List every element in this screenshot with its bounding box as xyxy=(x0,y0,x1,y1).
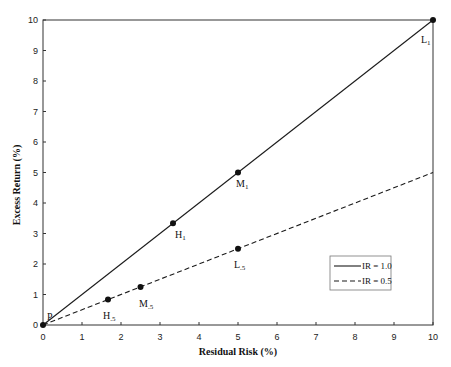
legend: IR = 1.0 IR = 0.5 xyxy=(330,256,392,290)
x-tick-label: 9 xyxy=(391,332,396,342)
x-axis-title: Residual Risk (%) xyxy=(199,346,277,358)
y-axis-title: Excess Return (%) xyxy=(11,145,23,226)
y-tick-label: 3 xyxy=(33,229,38,239)
x-tick-label: 8 xyxy=(352,332,357,342)
x-tick-label: 4 xyxy=(196,332,201,342)
y-tick-label: 9 xyxy=(33,46,38,56)
x-tick-label: 0 xyxy=(40,332,45,342)
x-tick-label: 10 xyxy=(428,332,438,342)
legend-solid-label: IR = 1.0 xyxy=(362,261,392,271)
x-tick-label: 2 xyxy=(118,332,123,342)
y-tick-label: 0 xyxy=(33,320,38,330)
y-tick-label: 5 xyxy=(33,168,38,178)
x-tick-label: 1 xyxy=(79,332,84,342)
y-tick-label: 8 xyxy=(33,76,38,86)
chart: 0 1 2 3 4 5 6 7 8 9 10 Residual Risk (%)… xyxy=(0,0,451,367)
x-tick-label: 6 xyxy=(274,332,279,342)
y-tick-label: 1 xyxy=(33,290,38,300)
point-l1 xyxy=(430,17,436,23)
label-m1: M1 xyxy=(236,178,249,191)
point-m1 xyxy=(235,170,241,176)
y-tick-label: 4 xyxy=(33,198,38,208)
point-m5 xyxy=(138,284,144,290)
label-p: P xyxy=(47,311,53,322)
y-tick-label: 2 xyxy=(33,259,38,269)
label-h1: H1 xyxy=(175,229,186,242)
y-tick-label: 6 xyxy=(33,137,38,147)
y-tick-label: 10 xyxy=(28,15,38,25)
legend-dashed-label: IR = 0.5 xyxy=(362,276,392,286)
point-l5 xyxy=(235,246,241,252)
x-tick-label: 7 xyxy=(313,332,318,342)
point-h5 xyxy=(105,297,111,303)
x-axis: 0 1 2 3 4 5 6 7 8 9 10 Residual Risk (%) xyxy=(40,322,438,358)
y-tick-label: 7 xyxy=(33,107,38,117)
y-axis: 0 1 2 3 4 5 6 7 8 9 10 Excess Return (%) xyxy=(11,15,46,330)
point-p xyxy=(40,322,46,328)
label-m5: M.5 xyxy=(139,298,154,311)
label-h5: H.5 xyxy=(103,310,116,323)
label-l5: L.5 xyxy=(234,259,246,272)
point-h1 xyxy=(170,220,176,226)
label-l1: L1 xyxy=(421,34,431,47)
x-tick-label: 3 xyxy=(157,332,162,342)
x-tick-label: 5 xyxy=(235,332,240,342)
